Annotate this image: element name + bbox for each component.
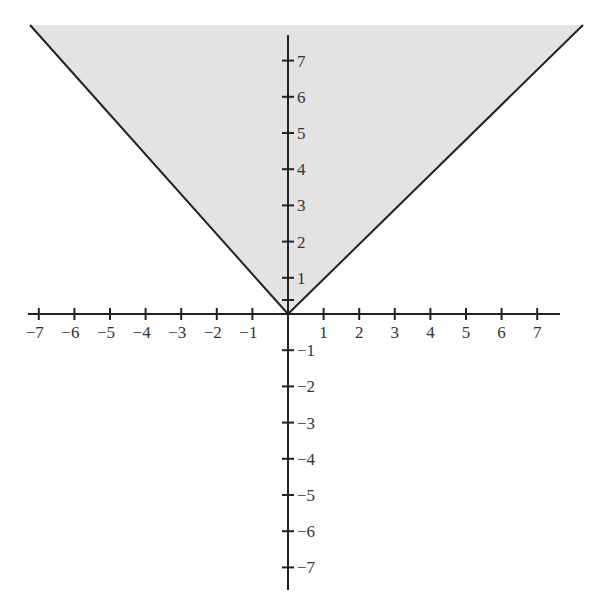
x-tick-label: 4 [426,324,435,341]
y-tick-label: 7 [297,52,306,69]
y-tick-label: 6 [297,88,306,105]
y-tick-label: −3 [297,414,315,431]
y-tick-label: 3 [297,197,306,214]
x-tick-label: −7 [26,324,44,341]
y-tick-label: 1 [297,269,306,286]
x-tick-label: 6 [497,324,506,341]
x-tick-label: 1 [319,324,328,341]
y-tick-label: 2 [297,233,306,250]
y-tick-label: −5 [297,487,315,504]
y-tick-label: −1 [297,342,315,359]
x-tick-label: 3 [391,324,400,341]
x-tick-label: −4 [133,324,151,341]
coordinate-plane [0,0,589,602]
x-tick-label: 7 [533,324,542,341]
x-tick-label: 2 [355,324,364,341]
x-tick-label: −2 [204,324,222,341]
y-tick-label: −7 [297,559,315,576]
x-tick-label: −3 [168,324,186,341]
x-tick-label: −1 [239,324,257,341]
shaded-region [30,25,583,314]
x-tick-label: −6 [61,324,79,341]
y-tick-label: 5 [297,125,306,142]
x-tick-label: 5 [462,324,471,341]
y-tick-label: 4 [297,161,306,178]
x-tick-label: −5 [97,324,115,341]
y-tick-label: −4 [297,450,315,467]
y-tick-label: −2 [297,378,315,395]
y-tick-label: −6 [297,523,315,540]
